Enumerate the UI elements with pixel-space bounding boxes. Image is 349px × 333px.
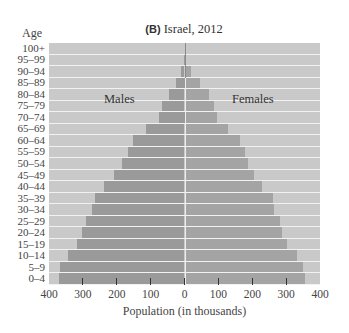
female-bar [185, 112, 218, 123]
x-tick [82, 278, 83, 285]
male-bar [59, 273, 185, 284]
x-tick [150, 278, 151, 285]
female-bar [185, 170, 255, 181]
female-bar [185, 193, 273, 204]
male-bar [68, 250, 184, 261]
male-bar [146, 124, 184, 135]
female-bar [185, 78, 200, 89]
x-tick-label: 400 [311, 288, 328, 300]
female-bar [185, 273, 305, 284]
x-tick [184, 278, 185, 285]
age-label: 10–14 [18, 250, 46, 261]
age-label: 30–34 [18, 204, 46, 215]
x-tick-label: 100 [210, 288, 227, 300]
male-bar [60, 262, 184, 273]
center-axis-line [185, 43, 186, 285]
male-bar [104, 181, 184, 192]
male-bar [95, 193, 184, 204]
male-bar [92, 204, 185, 215]
x-axis-label: Population (in thousands) [49, 304, 320, 319]
male-bar [162, 101, 184, 112]
center-axis-line-top [185, 43, 186, 78]
x-tick-label: 0 [182, 288, 188, 300]
x-tick-label: 400 [40, 288, 57, 300]
age-label: 75–79 [18, 100, 46, 111]
male-bar [77, 239, 184, 250]
male-bar [86, 216, 185, 227]
male-bar [176, 78, 184, 89]
x-tick [252, 278, 253, 285]
x-tick [286, 278, 287, 285]
male-bar [133, 135, 184, 146]
female-bar [185, 227, 283, 238]
chart-title: (B) Israel, 2012 [0, 22, 349, 37]
age-label: 45–49 [18, 170, 46, 181]
male-bar [114, 170, 184, 181]
age-label: 60–64 [18, 135, 46, 146]
x-tick-label: 100 [142, 288, 159, 300]
chart-title-tag: (B) [145, 23, 160, 35]
age-label: 65–69 [18, 123, 46, 134]
plot-area [49, 43, 320, 285]
female-bar [185, 262, 304, 273]
female-bar [185, 89, 209, 100]
male-bar [128, 147, 185, 158]
age-label: 0–4 [29, 273, 46, 284]
chart-title-text: Israel, 2012 [164, 22, 223, 36]
age-label: 40–44 [18, 181, 46, 192]
age-label: 100+ [22, 43, 45, 54]
age-label: 15–19 [18, 239, 46, 250]
age-label: 90–94 [18, 66, 46, 77]
female-bar [185, 124, 229, 135]
age-label: 55–59 [18, 146, 46, 157]
age-label: 80–84 [18, 89, 46, 100]
x-tick-label: 200 [108, 288, 125, 300]
x-tick-label: 200 [244, 288, 261, 300]
male-bar [82, 227, 184, 238]
age-label: 35–39 [18, 193, 46, 204]
female-bar [185, 135, 241, 146]
male-bar [169, 89, 184, 100]
female-bar [185, 250, 297, 261]
female-bar [185, 204, 274, 215]
female-bar [185, 101, 215, 112]
male-bar [122, 158, 184, 169]
x-tick-label: 300 [74, 288, 91, 300]
y-axis-label: Age [22, 26, 42, 41]
x-tick [218, 278, 219, 285]
age-label: 70–74 [18, 112, 46, 123]
male-bar [159, 112, 184, 123]
female-bar [185, 181, 263, 192]
females-label: Females [232, 92, 274, 107]
age-label: 25–29 [18, 216, 46, 227]
age-label: 95–99 [18, 54, 46, 65]
female-bar [185, 147, 245, 158]
female-bar [185, 216, 280, 227]
age-label: 20–24 [18, 227, 46, 238]
age-label: 5–9 [29, 262, 46, 273]
age-label: 85–89 [18, 77, 46, 88]
female-bar [185, 239, 288, 250]
x-tick-label: 300 [278, 288, 295, 300]
males-label: Males [104, 92, 135, 107]
x-tick [116, 278, 117, 285]
female-bar [185, 158, 248, 169]
age-label: 50–54 [18, 158, 46, 169]
